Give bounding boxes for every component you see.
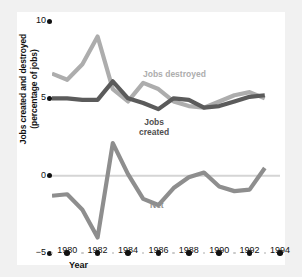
plot-area	[52, 21, 280, 253]
y-axis-label: Jobs created and destroyed (percentage o…	[18, 14, 40, 164]
series-label-jobs-created-line2: created	[139, 127, 169, 137]
x-tick-marker-minor	[233, 252, 236, 255]
y-axis-label-line1: Jobs created and destroyed	[18, 34, 28, 144]
x-tick-marker-minor	[112, 252, 115, 255]
series-label-jobs-destroyed: Jobs destroyed	[143, 69, 206, 79]
x-tick-marker-major	[186, 250, 192, 256]
x-tick-marker-minor	[81, 252, 84, 255]
y-tick-label: 10	[24, 15, 46, 25]
x-tick-marker-major	[156, 250, 162, 256]
y-tick-marker	[47, 19, 52, 24]
y-tick-label: 5	[24, 92, 46, 102]
y-tick-marker	[47, 96, 52, 101]
y-axis-label-line2: (percentage of jobs)	[29, 49, 39, 128]
series-line-net	[52, 143, 265, 237]
x-tick-marker-minor	[51, 252, 54, 255]
x-tick-marker-minor	[203, 252, 206, 255]
chart-canvas	[52, 21, 280, 253]
x-tick-marker-minor	[264, 252, 267, 255]
y-tick-label: 0	[24, 170, 46, 180]
x-tick-marker-minor	[172, 252, 175, 255]
chart-figure: Jobs created and destroyed (percentage o…	[17, 12, 285, 265]
x-tick-marker-major	[216, 250, 222, 256]
x-tick-marker-major	[95, 250, 101, 256]
x-tick-marker-major	[125, 250, 131, 256]
x-tick-marker-major	[277, 250, 283, 256]
series-label-net: Net	[150, 200, 164, 210]
series-label-jobs-created: Jobs created	[139, 117, 169, 137]
x-tick-marker-major	[247, 250, 253, 256]
x-tick-marker-major	[64, 250, 70, 256]
series-label-jobs-created-line1: Jobs	[144, 117, 164, 127]
x-axis-label: Year	[69, 260, 88, 270]
y-tick-label: −5	[24, 247, 46, 257]
